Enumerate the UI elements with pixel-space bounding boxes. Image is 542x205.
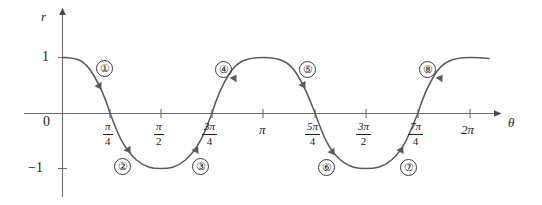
x-tick-label-2pi: 2π [461, 123, 474, 136]
fraction-numerator: π [154, 121, 164, 135]
fraction-numerator: 3π [356, 121, 371, 135]
fraction-numerator: 3π [202, 121, 217, 135]
x-tick-label-3pi-over-4: 3π 4 [202, 121, 217, 147]
fraction-denominator: 4 [202, 135, 217, 148]
x-tick-label-pi-over-2: π 2 [154, 121, 164, 147]
fraction-denominator: 4 [408, 135, 423, 148]
x-tick-label-7pi-over-4: 7π 4 [408, 121, 423, 147]
fraction-denominator: 4 [305, 135, 320, 148]
x-tick-label-pi-over-4: π 4 [103, 121, 113, 147]
curve-direction-arrows [94, 72, 446, 157]
y-axis-label: r [41, 10, 46, 23]
y-tick-label-0: 0 [43, 115, 50, 129]
fraction-numerator: 5π [305, 121, 320, 135]
segment-marker-6: ⑥ [318, 159, 335, 176]
segment-marker-7: ⑦ [400, 159, 417, 176]
y-tick-label-neg1: −1 [28, 161, 43, 175]
segment-marker-2: ② [114, 158, 131, 175]
fraction-denominator: 2 [154, 135, 164, 148]
segment-marker-4: ④ [215, 61, 232, 78]
x-tick-label-3pi-over-2: 3π 2 [356, 121, 371, 147]
segment-marker-1: ① [96, 60, 113, 77]
segment-marker-5: ⑤ [299, 61, 316, 78]
x-tick-label-5pi-over-4: 5π 4 [305, 121, 320, 147]
segment-marker-8: ⑧ [419, 61, 436, 78]
cosine-curve-figure: r θ 1 0 −1 π 4 π 2 3π 4 π 5π 4 3π 2 7π 4… [0, 0, 542, 205]
fraction-numerator: 7π [408, 121, 423, 135]
y-tick-label-1: 1 [42, 50, 49, 64]
x-tick-label-pi: π [259, 123, 266, 136]
fraction-denominator: 4 [103, 135, 113, 148]
segment-marker-3: ③ [192, 158, 209, 175]
fraction-denominator: 2 [356, 135, 371, 148]
fraction-numerator: π [103, 121, 113, 135]
x-axis-label: θ [508, 116, 514, 129]
plot-canvas [0, 0, 542, 205]
